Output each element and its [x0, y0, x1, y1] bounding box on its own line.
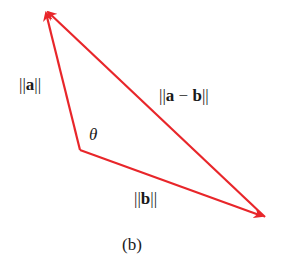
figure-caption: (b) [122, 235, 142, 254]
label-norm-a-minus-b: ||a − b|| [159, 86, 209, 105]
vector-b-arrow [80, 150, 262, 216]
label-norm-b: ||b|| [134, 189, 157, 208]
label-norm-a: ||a|| [19, 75, 41, 94]
vector-triangle-diagram: ||a|| ||a − b|| θ ||b|| (b) [0, 0, 282, 273]
vector-a-minus-b-arrow [48, 12, 265, 217]
angle-theta-label: θ [89, 125, 97, 144]
vector-a-arrow [46, 13, 80, 150]
